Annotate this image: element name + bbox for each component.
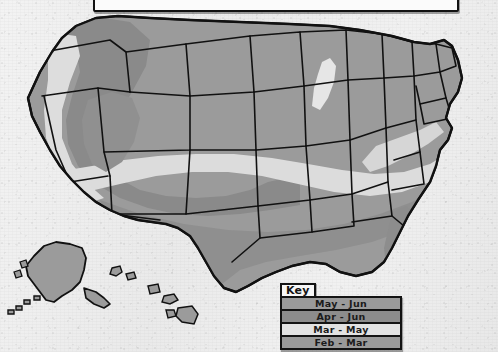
hawaii-island-1 — [110, 266, 122, 276]
key-row-label: Feb - Mar — [314, 337, 367, 348]
hawaii-island-5 — [176, 306, 198, 324]
hawaii-inset — [110, 266, 198, 324]
hawaii-island-6 — [166, 310, 176, 318]
key-row-mar-may: Mar - May — [282, 324, 400, 337]
alaska-mainland — [26, 242, 86, 302]
screenshot-stage: Key May - Jun Apr - Jun Mar - May Feb - … — [0, 0, 498, 352]
us-map — [0, 0, 498, 352]
key-row-label: Apr - Jun — [316, 311, 365, 322]
key-row-apr-jun: Apr - Jun — [282, 311, 400, 324]
key-row-may-jun: May - Jun — [282, 298, 400, 311]
hawaii-island-3 — [148, 284, 160, 294]
hawaii-island-4 — [162, 294, 178, 304]
key-row-label: Mar - May — [313, 324, 369, 335]
key-row-feb-mar: Feb - Mar — [282, 337, 400, 348]
key-legend: May - Jun Apr - Jun Mar - May Feb - Mar — [280, 296, 402, 350]
alaska-panhandle — [84, 288, 110, 308]
key-row-label: May - Jun — [315, 298, 367, 309]
alaska-aleutians — [8, 296, 40, 314]
hawaii-island-2 — [126, 272, 136, 280]
alaska-inset — [8, 242, 110, 314]
lower-48-landmass — [22, 16, 462, 292]
us-map-svg — [0, 0, 498, 352]
